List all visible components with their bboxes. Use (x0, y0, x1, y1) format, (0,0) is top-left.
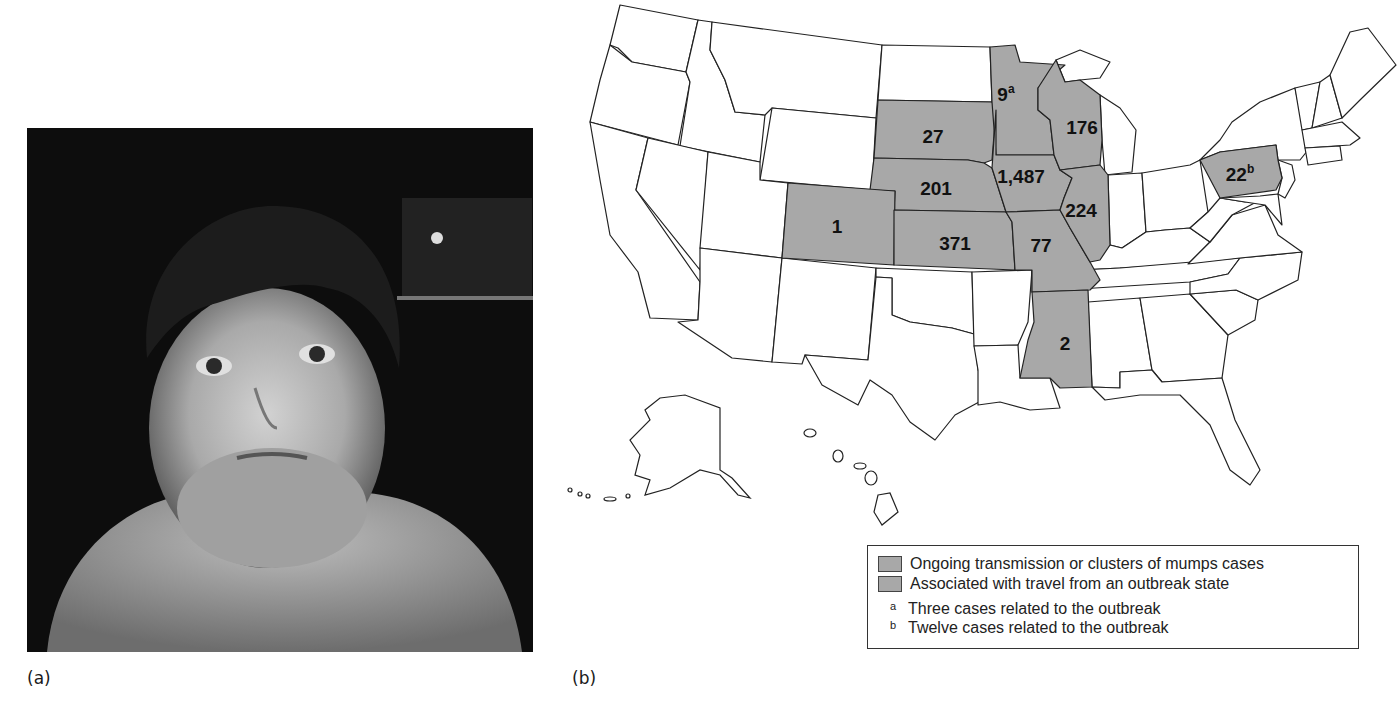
legend-label-travel: Associated with travel from an outbreak … (910, 575, 1229, 593)
label-ia: 1,487 (997, 166, 1045, 187)
label-ks: 371 (939, 233, 971, 254)
legend-swatch-travel (878, 576, 902, 592)
footnote-b-text: Twelve cases related to the outbreak (908, 619, 1169, 637)
state-mt (710, 22, 882, 118)
state-wy (760, 108, 876, 190)
state-hi (874, 493, 898, 525)
label-wi: 176 (1066, 117, 1098, 138)
label-ne: 201 (920, 178, 952, 199)
panel-label-a: (a) (27, 668, 51, 688)
footnote-a: a Three cases related to the outbreak (890, 600, 1358, 619)
map-legend: Ongoing transmission or clusters of mump… (867, 545, 1359, 649)
state-nd (878, 45, 992, 102)
state-ms (1020, 290, 1092, 388)
label-il: 224 (1065, 200, 1097, 221)
state-me (1330, 28, 1396, 118)
state-ar (972, 270, 1032, 346)
state-mi-lower (1100, 95, 1136, 175)
legend-item-ongoing: Ongoing transmission or clusters of mump… (878, 554, 1358, 574)
state-ct (1305, 146, 1342, 165)
footnote-a-mark: a (890, 600, 908, 612)
us-mumps-map: 27 9a 176 201 1,487 224 1 371 77 22b 2 (560, 0, 1397, 540)
state-nm (772, 258, 876, 364)
label-sd: 27 (922, 126, 943, 147)
legend-item-travel: Associated with travel from an outbreak … (878, 574, 1358, 594)
label-ms: 2 (1060, 333, 1071, 354)
footnote-b-mark: b (890, 619, 908, 631)
legend-label-ongoing: Ongoing transmission or clusters of mump… (910, 555, 1264, 573)
panel-label-b: (b) (572, 668, 596, 688)
child-photo (27, 128, 533, 652)
label-mo: 77 (1030, 235, 1051, 256)
state-ak (630, 395, 750, 498)
footnote-b: b Twelve cases related to the outbreak (890, 619, 1358, 638)
label-co: 1 (832, 216, 843, 237)
legend-swatch-ongoing (878, 556, 902, 572)
footnote-a-text: Three cases related to the outbreak (908, 600, 1161, 618)
